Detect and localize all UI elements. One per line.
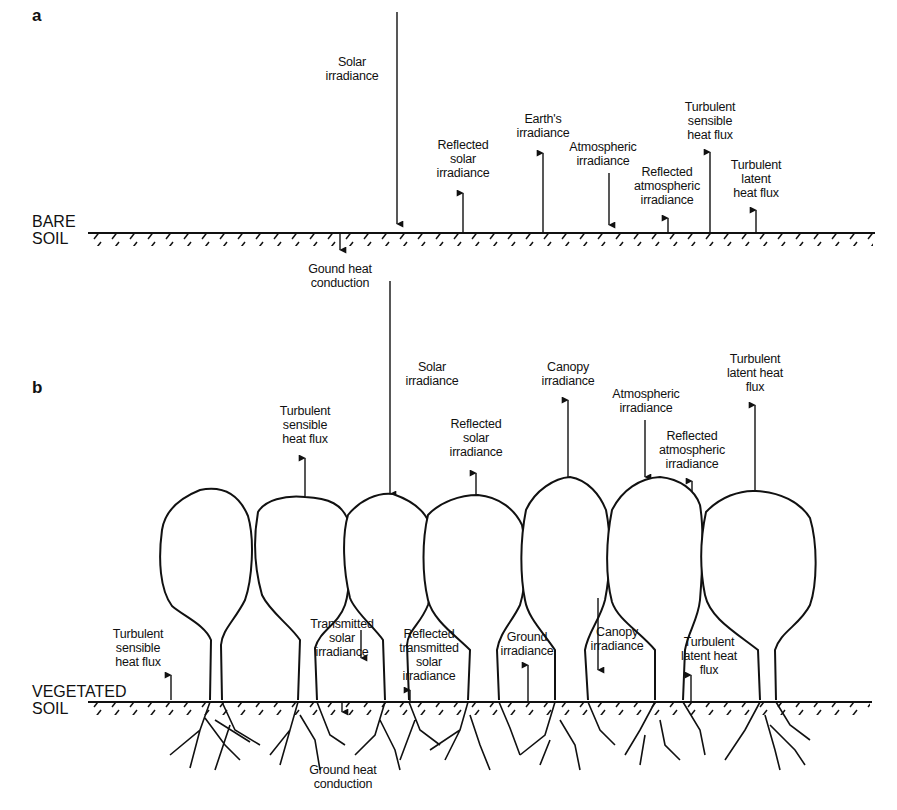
label-canopy-up-b: Canopy irradiance	[542, 360, 595, 388]
label-turbulent-latent-top-b: Turbulent latent heat flux	[727, 352, 783, 394]
energy-balance-diagram	[0, 0, 897, 810]
label-turbulent-sensible-top-b: Turbulent sensible heat flux	[280, 404, 331, 446]
label-reflected-atmospheric-a: Reflected atmospheric irradiance	[634, 165, 700, 207]
label-earths-irradiance-a: Earth's irradiance	[517, 112, 570, 140]
bare-soil-label-line1: BARE	[32, 213, 76, 230]
tree-2	[255, 497, 350, 700]
label-turbulent-latent-bottom-b: Turbulent latent heat flux	[681, 635, 737, 677]
label-transmitted-solar-b: Transmitted solar irradiance	[310, 617, 373, 659]
panel-b-letter: b	[32, 378, 42, 398]
label-turbulent-sensible-a: Turbulent sensible heat flux	[685, 100, 736, 142]
label-atmospheric-b: Atmospheric irradiance	[612, 387, 679, 415]
label-reflected-solar-b: Reflected solar irradiance	[450, 417, 503, 459]
label-turbulent-latent-a: Turbulent latent heat flux	[731, 158, 782, 200]
bare-soil-label: BARE SOIL	[32, 213, 76, 247]
label-solar-a: Solar irradiance	[326, 55, 379, 83]
tree-1	[160, 489, 252, 700]
bare-soil-label-line2: SOIL	[32, 230, 76, 247]
label-reflected-transmitted-b: Reflected transmitted solar irradiance	[399, 627, 459, 683]
label-turbulent-sensible-bottom-b: Turbulent sensible heat flux	[113, 627, 164, 669]
label-canopy-down-b: Canopy irradiance	[591, 625, 644, 653]
label-reflected-atmospheric-b: Reflected atmospheric irradiance	[659, 429, 725, 471]
panel-a-letter: a	[32, 6, 41, 26]
vegetated-soil-label: VEGETATED SOIL	[32, 683, 127, 717]
tree-5	[521, 477, 609, 700]
label-atmospheric-a: Atmospheric irradiance	[569, 140, 636, 168]
label-solar-b: Solar irradiance	[406, 360, 459, 388]
label-reflected-solar-a: Reflected solar irradiance	[437, 138, 490, 180]
vegetated-soil-label-line2: SOIL	[32, 700, 127, 717]
label-ground-heat-a: Gound heat conduction	[308, 262, 371, 290]
vegetated-soil-label-line1: VEGETATED	[32, 683, 127, 700]
label-ground-irradiance-b: Ground irradiance	[501, 630, 554, 658]
bare-soil-surface	[88, 233, 875, 246]
label-ground-heat-b: Ground heat conduction	[309, 763, 376, 791]
